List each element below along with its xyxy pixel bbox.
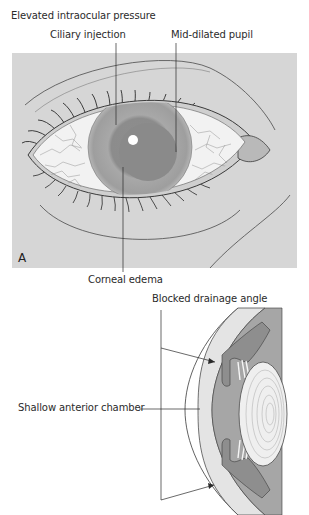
panel-b-anterior-chamber-illustration [0,0,309,515]
